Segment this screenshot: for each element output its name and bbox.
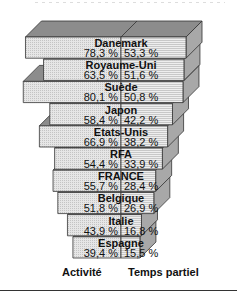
temps-partiel-value: 42,2 % xyxy=(124,115,158,126)
temps-partiel-value: 15,5 % xyxy=(124,248,158,259)
activite-value: 54,4 % xyxy=(84,159,118,170)
activite-value: 80,1 % xyxy=(84,92,118,103)
activite-value: 39,4 % xyxy=(84,248,118,259)
bottom-rule xyxy=(0,290,237,291)
activite-value: 58,4 % xyxy=(84,115,118,126)
temps-partiel-value: 26,9 % xyxy=(124,203,158,214)
activite-value: 63,5 % xyxy=(84,70,118,81)
axis-label-temps-partiel: Temps partiel xyxy=(128,266,199,278)
temps-partiel-value: 33,9 % xyxy=(124,159,158,170)
temps-partiel-value: 51,6 % xyxy=(124,70,158,81)
bar-top-face xyxy=(25,21,202,37)
temps-partiel-value: 28,4 % xyxy=(124,181,158,192)
chart: Danemark78,3 %53,3 %Royaume-Uni63,5 %51,… xyxy=(0,0,237,300)
activite-value: 55,7 % xyxy=(84,181,118,192)
temps-partiel-value: 53,3 % xyxy=(124,48,158,59)
temps-partiel-value: 38,2 % xyxy=(124,137,158,148)
temps-partiel-value: 50,8 % xyxy=(124,92,158,103)
temps-partiel-value: 16,8 % xyxy=(124,226,158,237)
axis-label-activite: Activité xyxy=(62,266,102,278)
activite-value: 66,9 % xyxy=(84,137,118,148)
activite-value: 78,3 % xyxy=(84,48,118,59)
activite-value: 51,8 % xyxy=(84,203,118,214)
activite-value: 43,9 % xyxy=(84,226,118,237)
